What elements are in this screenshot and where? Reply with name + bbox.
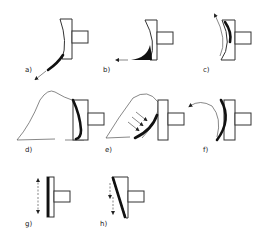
blade-edge (135, 115, 157, 138)
panel-g: g) (25, 177, 70, 228)
tool-diagram-figure: a) b) c) d) (0, 0, 265, 236)
panel-label-g: g) (25, 220, 32, 228)
panel-label-f: f) (203, 146, 208, 154)
panel-label-e: e) (105, 146, 112, 154)
chip-trail (36, 71, 46, 79)
panel-e: e) (105, 94, 184, 154)
rotation-arc (190, 103, 219, 138)
panel-label-c: c) (203, 66, 210, 74)
chip-trail (215, 15, 223, 56)
panel-label-d: d) (25, 146, 32, 154)
material-mass (106, 94, 158, 138)
tool-body (112, 177, 144, 218)
panel-label-b: b) (103, 66, 110, 74)
tool-body (158, 100, 184, 140)
tool-body (221, 20, 251, 60)
panel-f: f) (190, 100, 251, 154)
panel-h: h) (100, 177, 144, 228)
tool-body (224, 100, 251, 140)
downward-motion-arrows (110, 183, 113, 213)
chip-flow (48, 55, 63, 70)
material-pile (17, 91, 72, 140)
tool-body (73, 100, 104, 140)
panel-label-a: a) (25, 66, 32, 74)
panel-label-h: h) (100, 220, 107, 228)
panel-a: a) (25, 19, 88, 79)
panel-b: b) (103, 20, 173, 74)
panel-d: d) (17, 91, 104, 154)
tool-body (47, 177, 70, 217)
ground-line (106, 137, 130, 138)
tool-body (60, 19, 88, 59)
force-arrows (128, 112, 146, 130)
panel-c: c) (203, 15, 251, 74)
chip-buildup (131, 45, 152, 60)
